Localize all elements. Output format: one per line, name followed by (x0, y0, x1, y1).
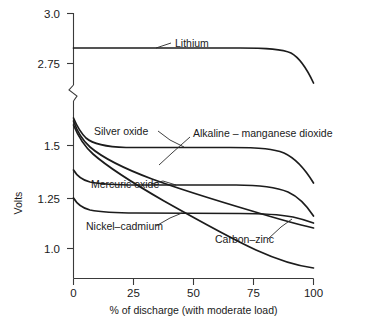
series-label-nickel-cadmium: Nickel–cadmium (86, 220, 163, 232)
xtick-label-25: 25 (127, 287, 140, 299)
series-label-lithium: Lithium (175, 37, 209, 49)
x-axis (74, 279, 314, 286)
series-label-mercuric-oxide: Mercuric oxide (91, 178, 159, 190)
xtick-label-50: 50 (187, 287, 200, 299)
ytick-label-1-0: 1.0 (44, 243, 60, 255)
chart-canvas: 3.0 2.75 1.5 1.25 1.0 0 25 50 75 100 % o… (0, 0, 375, 328)
x-axis-title: % of discharge (with moderate load) (109, 304, 277, 316)
xtick-label-75: 75 (247, 287, 260, 299)
ytick-label-3-0: 3.0 (44, 8, 60, 20)
y-axis-title: Volts (12, 192, 24, 215)
series-label-alkaline-manganese-dioxide: Alkaline – manganese dioxide (193, 127, 333, 139)
y-axis-upper (67, 13, 74, 85)
battery-discharge-chart: 3.0 2.75 1.5 1.25 1.0 0 25 50 75 100 % o… (0, 0, 375, 328)
series-label-silver-oxide: Silver oxide (94, 125, 148, 137)
series-label-carbon-zinc: Carbon–zinc (215, 233, 274, 245)
ytick-label-1-25: 1.25 (38, 193, 60, 205)
ytick-label-1-5: 1.5 (44, 140, 60, 152)
y-axis-lower (67, 101, 74, 279)
xtick-label-100: 100 (304, 287, 323, 299)
annotation-leaders (151, 43, 292, 239)
y-axis-break-mark (69, 85, 77, 101)
xtick-label-0: 0 (70, 287, 76, 299)
ytick-label-2-75: 2.75 (38, 58, 60, 70)
series-line-lithium (74, 48, 314, 83)
